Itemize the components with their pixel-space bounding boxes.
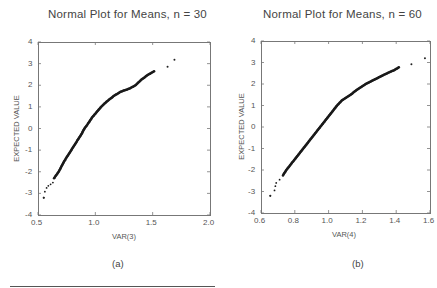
x-tick-label: 1.0 — [322, 216, 333, 225]
y-tick-label: 4 — [251, 36, 255, 45]
y-tick-label: 1 — [251, 101, 255, 110]
data-point — [275, 182, 277, 184]
data-point — [398, 66, 401, 69]
y-tick-label: -3 — [248, 187, 255, 196]
y-tick-label: -2 — [248, 165, 255, 174]
outlier-point — [410, 63, 412, 65]
x-axis-label-b: VAR(4) — [332, 230, 356, 239]
outlier-point — [424, 57, 426, 59]
x-tick-label: 1.6 — [423, 216, 434, 225]
y-tick-label: 0 — [251, 122, 255, 131]
y-tick-label: 2 — [251, 79, 255, 88]
y-tick-label: -4 — [248, 208, 255, 217]
x-tick-label: 1.4 — [389, 216, 400, 225]
data-point — [274, 190, 276, 192]
x-tick-label: 0.8 — [288, 216, 299, 225]
y-tick-label: -1 — [248, 144, 255, 153]
divider-line — [10, 286, 215, 287]
caption-b: (b) — [352, 258, 364, 269]
outlier-point — [269, 195, 271, 197]
data-point — [274, 185, 276, 187]
y-axis-label-b: EXPECTED VALUE — [237, 93, 246, 160]
x-tick-label: 1.2 — [355, 216, 366, 225]
plot-area-b — [0, 0, 437, 288]
data-point — [279, 179, 281, 181]
y-tick-label: 3 — [251, 58, 255, 67]
x-tick-label: 0.6 — [254, 216, 265, 225]
